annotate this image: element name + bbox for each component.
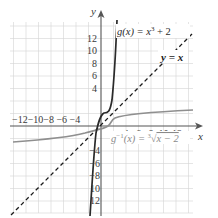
svg-text:−12−10−8 −6 −4: −12−10−8 −6 −4 xyxy=(12,114,80,125)
svg-text:8: 8 xyxy=(92,58,97,69)
x-axis-label: x xyxy=(197,130,203,142)
svg-text:10: 10 xyxy=(90,183,100,194)
y-axis-label: y xyxy=(90,5,96,17)
svg-text:4: 4 xyxy=(92,83,97,94)
svg-text:−8: −8 xyxy=(89,170,100,181)
svg-text:6: 6 xyxy=(92,70,97,81)
svg-text:10: 10 xyxy=(87,45,97,56)
y-tick-labels: 12 10 8 6 4 −4 −6 −8 10 12 xyxy=(87,33,100,206)
svg-text:−6: −6 xyxy=(89,158,100,169)
svg-text:−4: −4 xyxy=(89,145,100,156)
y-equals-x-label: y = x xyxy=(159,51,184,63)
graph-canvas: y x 12 10 8 6 4 −4 −6 −8 10 12 −12−10−8 … xyxy=(0,0,218,218)
svg-text:12: 12 xyxy=(87,33,97,44)
g-label: g(x) = x3 + 2 xyxy=(117,25,171,38)
svg-text:12: 12 xyxy=(90,195,100,206)
